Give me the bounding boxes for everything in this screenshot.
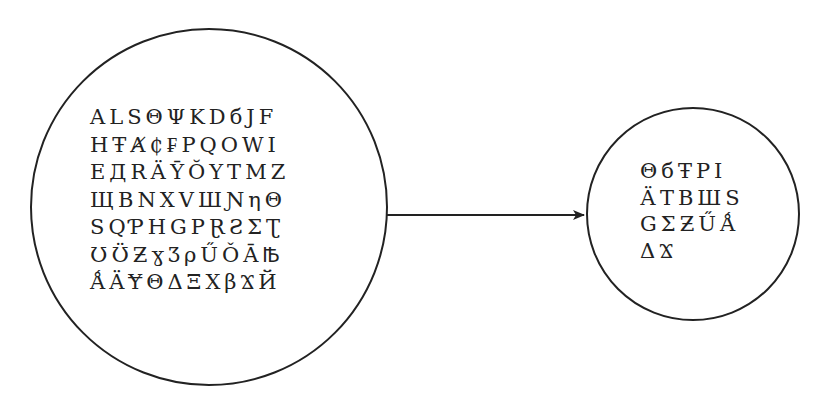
glyph: Ʊ̈ [111, 242, 129, 270]
glyph: X [205, 269, 221, 297]
target-set-glyphs: ΘбŦPI ӒTBШS GΣƵŰǺ ΔϪ [640, 158, 744, 264]
glyph: Ԛ [108, 214, 126, 242]
glyph: Д [109, 159, 127, 187]
glyph: Ɲ [226, 187, 245, 215]
glyph: Ǻ [720, 211, 736, 238]
glyph: O [221, 132, 239, 160]
glyph: Ƶ [133, 242, 149, 270]
glyph: ρ [184, 242, 197, 270]
glyph: H [148, 214, 167, 242]
glyph: б [230, 104, 244, 132]
glyph: V [179, 187, 195, 215]
source-row-6: ƱƱ̈ƵɣƷρŰǑĀꙒ [90, 242, 289, 270]
glyph: б [661, 158, 675, 185]
glyph: Ƥ [130, 214, 145, 242]
glyph: Ƨ [229, 214, 244, 242]
glyph: Ξ [187, 269, 203, 297]
glyph: Щ [90, 187, 115, 215]
glyph: Σ [661, 211, 677, 238]
glyph: P [181, 132, 196, 160]
source-row-2: HŦȺ₵₣PQOWI [90, 132, 289, 160]
glyph: Ꙓ [262, 242, 281, 270]
glyph: Δ [640, 238, 656, 265]
glyph: Ɽ [209, 214, 226, 242]
glyph: ₵ [150, 132, 164, 160]
glyph: Q [200, 132, 218, 160]
glyph: Ŏ [188, 159, 206, 187]
glyph: Ʈ [266, 214, 281, 242]
glyph: Ŧ [112, 132, 127, 160]
glyph: B [678, 185, 694, 212]
glyph: Ƶ [680, 211, 696, 238]
glyph: Θ [640, 158, 658, 185]
glyph: Ɏ [128, 269, 143, 297]
glyph: H [90, 132, 109, 160]
glyph: F [259, 104, 275, 132]
glyph: Ӓ [150, 159, 167, 187]
glyph: E [90, 159, 106, 187]
glyph: Ä [109, 269, 125, 297]
glyph: K [189, 104, 206, 132]
glyph: S [90, 214, 105, 242]
glyph: ɣ [151, 242, 165, 270]
source-row-3: EДRӒȲŎYTMZ [90, 159, 289, 187]
glyph: G [640, 211, 658, 238]
glyph: Ŧ [678, 158, 693, 185]
glyph: Θ [265, 187, 283, 215]
glyph: W [242, 132, 265, 160]
glyph: Ű [698, 211, 717, 238]
glyph: I [268, 132, 277, 160]
source-row-5: SԚƤHGPⱤƧΣƮ [90, 214, 289, 242]
glyph: Ʒ [168, 242, 181, 270]
glyph: Z [271, 159, 287, 187]
glyph: Ǻ [90, 269, 106, 297]
glyph: Ϫ [240, 269, 255, 297]
glyph: Ǒ [222, 242, 240, 270]
target-row-3: GΣƵŰǺ [640, 211, 744, 238]
glyph: A [90, 104, 106, 132]
glyph: Ӓ [640, 185, 657, 212]
glyph: Δ [167, 269, 183, 297]
glyph: S [127, 104, 142, 132]
glyph: S [725, 185, 740, 212]
glyph: Ű [200, 242, 219, 270]
glyph: D [209, 104, 227, 132]
glyph: R [130, 159, 147, 187]
glyph: G [170, 214, 188, 242]
glyph: Ψ [167, 104, 186, 132]
target-row-4: ΔϪ [640, 238, 744, 265]
glyph: ₣ [167, 132, 179, 160]
target-row-2: ӒTBШS [640, 185, 744, 212]
source-row-1: ALSΘΨKDбJF [90, 104, 289, 132]
glyph: N [137, 187, 156, 215]
glyph: P [696, 158, 711, 185]
glyph: Ā [243, 242, 259, 270]
source-set-glyphs: ALSΘΨKDбJF HŦȺ₵₣PQOWI EДRӒȲŎYTMZ ЩBNXVШƝ… [90, 104, 289, 297]
source-row-4: ЩBNXVШƝηΘ [90, 187, 289, 215]
glyph: Й [258, 269, 277, 297]
glyph: η [248, 187, 262, 215]
target-row-1: ΘбŦPI [640, 158, 744, 185]
glyph: T [227, 159, 242, 187]
glyph: Σ [247, 214, 263, 242]
glyph: I [714, 158, 723, 185]
glyph: J [246, 104, 255, 132]
glyph: M [245, 159, 268, 187]
glyph: Ȳ [170, 159, 185, 187]
glyph: Ш [697, 185, 722, 212]
glyph: Θ [146, 104, 164, 132]
glyph: Y [209, 159, 224, 187]
glyph: B [118, 187, 134, 215]
glyph: P [191, 214, 206, 242]
source-row-7: ǺÄɎΘΔΞXβϪЙ [90, 269, 289, 297]
glyph: Ʊ [90, 242, 108, 270]
glyph: Ⱥ [130, 132, 146, 160]
glyph: β [224, 269, 237, 297]
glyph: Θ [146, 269, 164, 297]
glyph: X [160, 187, 176, 215]
glyph: Ϫ [659, 238, 674, 265]
glyph: L [109, 104, 124, 132]
glyph: Ш [198, 187, 223, 215]
glyph: T [660, 185, 675, 212]
